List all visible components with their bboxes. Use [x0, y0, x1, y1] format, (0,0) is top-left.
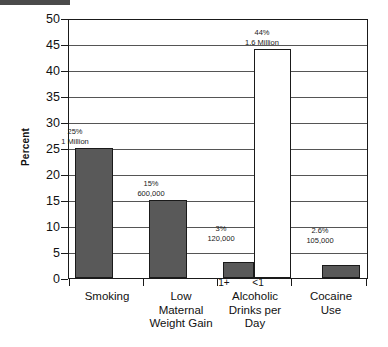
value-label-lmwg-percent: 15% [125, 179, 177, 189]
x-axis-label-cocaine-use: Cocaine Use [292, 290, 370, 317]
x-axis-label-cocaine-line2: Use [292, 304, 370, 318]
x-sub-label-less-than-1: <1 [242, 277, 274, 288]
y-tick-label-45: 45 [0, 38, 60, 52]
bar-chart: Percent 50 45 40 35 30 25 20 15 10 5 0 2 [0, 0, 388, 347]
value-label-smoking-percent: 25% [49, 127, 101, 137]
x-axis-label-lmwg-line3: Weight Gain [138, 317, 224, 331]
x-axis-label-lmwg-line2: Maternal [138, 304, 224, 318]
bar-alcohol-less-than-1 [254, 49, 291, 278]
x-axis-label-low-maternal-weight-gain: Low Maternal Weight Gain [138, 290, 224, 331]
y-tick-mark-20 [61, 175, 68, 176]
x-tick-mark-2 [143, 279, 144, 286]
y-tick-mark-30 [61, 123, 68, 124]
gridline-30 [69, 123, 367, 124]
x-axis-label-alcohol-line1: Alcoholic [214, 290, 296, 304]
x-sub-label-1plus: 1+ [208, 277, 240, 288]
value-label-smoking-count: 1 Million [49, 137, 101, 147]
value-label-cocaine-percent: 2.6% [294, 226, 346, 236]
bar-smoking [75, 148, 113, 278]
y-tick-label-50: 50 [0, 12, 60, 26]
x-axis-label-cocaine-line1: Cocaine [292, 290, 370, 304]
bar-alcohol-1plus [223, 262, 254, 278]
value-label-alcohol-less-than-1: 44% 1.6 Million [228, 28, 296, 47]
value-label-alcohol-1plus-percent: 3% [197, 224, 245, 234]
gridline-20 [69, 175, 367, 176]
y-tick-label-5: 5 [0, 246, 60, 260]
gridline-25 [69, 149, 367, 150]
y-tick-mark-10 [61, 227, 68, 228]
value-label-alcohol-1plus-count: 120,000 [197, 234, 245, 244]
y-tick-label-35: 35 [0, 90, 60, 104]
x-tick-mark-1 [69, 279, 70, 286]
y-tick-mark-40 [61, 71, 68, 72]
gridline-45 [69, 45, 367, 46]
x-axis-label-smoking-line1: Smoking [66, 290, 148, 304]
value-label-alcohol-lt1-count: 1.6 Million [228, 38, 296, 48]
y-tick-mark-0 [61, 279, 68, 280]
value-label-cocaine-count: 105,000 [294, 236, 346, 246]
y-tick-mark-35 [61, 97, 68, 98]
y-tick-label-20: 20 [0, 168, 60, 182]
bar-low-maternal-weight-gain [149, 200, 187, 278]
value-label-low-maternal-weight-gain: 15% 600,000 [125, 179, 177, 198]
gridline-40 [69, 71, 367, 72]
value-label-smoking: 25% 1 Million [49, 127, 101, 146]
y-tick-mark-25 [61, 149, 68, 150]
y-tick-label-40: 40 [0, 64, 60, 78]
gridline-35 [69, 97, 367, 98]
value-label-alcohol-1plus: 3% 120,000 [197, 224, 245, 243]
gridline-15 [69, 201, 367, 202]
y-tick-mark-5 [61, 253, 68, 254]
x-axis-label-lmwg-line1: Low [138, 290, 224, 304]
x-axis-label-alcohol-line2: Drinks per [214, 304, 296, 318]
value-label-alcohol-lt1-percent: 44% [228, 28, 296, 38]
x-axis-label-smoking: Smoking [66, 290, 148, 304]
y-tick-label-0: 0 [0, 272, 60, 286]
x-axis-label-alcoholic-drinks-per-day: Alcoholic Drinks per Day [214, 290, 296, 331]
y-tick-label-10: 10 [0, 220, 60, 234]
gridline-5 [69, 253, 367, 254]
x-axis-label-alcohol-line3: Day [214, 317, 296, 331]
y-tick-mark-15 [61, 201, 68, 202]
y-tick-mark-45 [61, 45, 68, 46]
value-label-lmwg-count: 600,000 [125, 189, 177, 199]
x-tick-mark-4 [291, 279, 292, 286]
y-tick-mark-50 [61, 19, 68, 20]
x-tick-mark-5 [366, 279, 367, 286]
value-label-cocaine-use: 2.6% 105,000 [294, 226, 346, 245]
y-tick-label-15: 15 [0, 194, 60, 208]
bar-cocaine-use [322, 265, 360, 279]
